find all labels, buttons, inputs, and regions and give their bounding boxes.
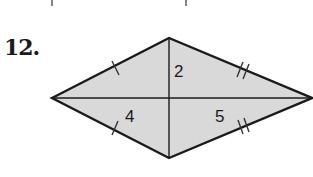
- kite-diagram: 2 4 5: [0, 0, 313, 177]
- label-left-segment: 4: [125, 107, 134, 126]
- label-upper-segment: 2: [174, 62, 183, 81]
- label-right-segment: 5: [215, 107, 224, 126]
